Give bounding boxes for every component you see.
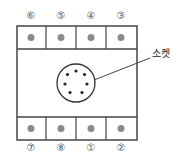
pin-number-3: ③ — [113, 10, 129, 22]
outer-frame — [17, 26, 137, 140]
leader-line — [94, 58, 150, 80]
pin-number-4: ④ — [83, 10, 99, 22]
pin-number-6: ⑥ — [23, 10, 39, 22]
socket — [57, 64, 95, 102]
pin-number-1: ① — [83, 142, 99, 154]
relay-socket-diagram — [0, 0, 182, 160]
socket-label: 소켓 — [152, 48, 170, 60]
pin-number-8: ⑧ — [53, 142, 69, 154]
pin-number-7: ⑦ — [23, 142, 39, 154]
pin-number-2: ② — [113, 142, 129, 154]
pin-number-5: ⑤ — [53, 10, 69, 22]
